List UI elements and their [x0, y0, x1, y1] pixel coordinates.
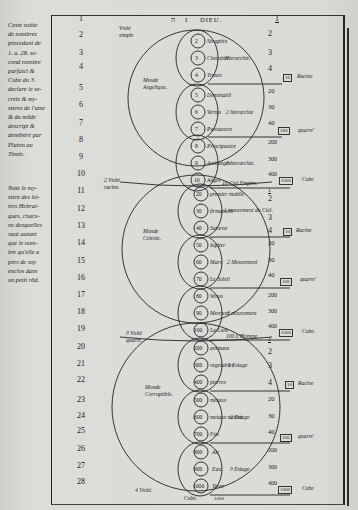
- cube-bottom-value: 1000: [214, 496, 224, 503]
- label-line: 2 Vnité: [104, 177, 120, 184]
- cube-bottom-label: Cube.: [184, 495, 197, 502]
- right-number-1: 1: [268, 14, 286, 23]
- circle-number: 40: [196, 225, 202, 232]
- circle-number: 2: [195, 38, 198, 45]
- right-number: 1: [268, 335, 286, 344]
- order-name: premier mobile: [210, 191, 244, 198]
- order-name: Dominatiō: [207, 92, 231, 99]
- hierarchy-label: 1 Estage: [228, 362, 247, 369]
- right-number: 200: [268, 138, 286, 147]
- left-number: 3: [72, 48, 90, 57]
- label-line: Angelique.: [143, 84, 167, 91]
- scanned-page: Ceste suitte de nombres procedant de 1. …: [0, 0, 358, 510]
- quarre-label: quarre': [298, 433, 314, 440]
- racine-label: Racine: [296, 227, 312, 234]
- right-number: 2: [268, 29, 286, 38]
- left-number: 27: [72, 461, 90, 470]
- right-number: 300: [268, 155, 286, 164]
- circle-number: 400: [194, 379, 202, 386]
- monde-corruptible-label: Monde Corruptible.: [145, 384, 173, 397]
- label-line: Monde: [143, 228, 161, 235]
- circle-number: 500: [194, 397, 202, 404]
- left-number: 23: [72, 395, 90, 404]
- monde-celeste-label: Monde Celeste.: [143, 228, 161, 241]
- label-line: quarre.: [126, 337, 142, 344]
- cube-box: 1000: [278, 486, 292, 494]
- hebrew-yod: I: [185, 16, 188, 24]
- circle-number: 50: [196, 242, 202, 249]
- left-number: 13: [72, 221, 90, 230]
- right-number: 30: [268, 255, 286, 264]
- label-line: Vnité: [119, 25, 134, 32]
- hebrew-he: ה: [171, 16, 176, 24]
- left-number: 18: [72, 307, 90, 316]
- unite-simple-label: Vnité simple: [119, 25, 134, 38]
- order-name: Le Soleil: [210, 276, 230, 283]
- unite-quarre-label: 3 Vnité quarre.: [126, 330, 142, 343]
- label-line: Monde: [145, 384, 173, 391]
- racine-box: 10: [283, 74, 292, 82]
- cube-label: Cube.: [302, 328, 315, 335]
- racine-label: Racine: [297, 73, 313, 80]
- circle-number: 600: [194, 414, 202, 421]
- circle-number: 20: [196, 191, 202, 198]
- left-number: 1: [72, 14, 90, 23]
- order-name: Anges: [207, 177, 221, 184]
- right-number: 300: [268, 307, 286, 316]
- label-line: Monde: [143, 77, 167, 84]
- left-number: 15: [72, 256, 90, 265]
- circle-number: 9: [195, 160, 198, 167]
- hierarchy-label: 2 hierarchie: [226, 109, 253, 116]
- right-number: 30: [268, 102, 286, 111]
- circle-number: 900: [194, 466, 202, 473]
- label-line: Celeste.: [143, 235, 161, 242]
- left-number: 10: [72, 169, 90, 178]
- order-name: Venus: [210, 293, 223, 300]
- left-number: 9: [72, 152, 90, 161]
- right-number: 20: [268, 394, 286, 403]
- left-number: 8: [72, 135, 90, 144]
- left-number: 21: [72, 359, 90, 368]
- cube-label: Cube: [302, 485, 314, 492]
- circle-number: 10: [194, 177, 200, 184]
- racine-label: Racine: [298, 380, 314, 387]
- hierarchy-label: 2 Estage: [230, 414, 249, 421]
- left-number: 7: [72, 118, 90, 127]
- hierarchy-label: Hierarchie.: [225, 55, 251, 62]
- circle-number: 8: [195, 143, 198, 150]
- hierarchy-label: 3 hierarchie.: [226, 160, 255, 167]
- left-number: 5: [72, 83, 90, 92]
- right-number: 4: [268, 64, 286, 73]
- circle-number: 4: [195, 72, 198, 79]
- right-number: 2: [268, 347, 286, 356]
- order-name: Saturne: [210, 225, 227, 232]
- quarre-box: 100: [280, 434, 292, 442]
- left-number: 12: [72, 204, 90, 213]
- dieu-title: DIEU.: [200, 16, 222, 23]
- cube-label: Cube: [302, 176, 314, 183]
- homme-label: 100 L'Homme: [226, 333, 258, 340]
- right-number: 200: [268, 446, 286, 455]
- monde-angelique-label: Monde Angelique.: [143, 77, 167, 90]
- unite-racine-label: 2 Vnité racine.: [104, 177, 120, 190]
- quarre-box: 100: [280, 278, 292, 286]
- hierarchy-label: 2 Mouvement: [227, 259, 257, 266]
- right-number: 30: [268, 411, 286, 420]
- left-number: 20: [72, 342, 90, 351]
- left-number: 17: [72, 290, 90, 299]
- label-line: Corruptible.: [145, 391, 173, 398]
- order-name: Principautez: [207, 143, 236, 150]
- circle-number: 200: [194, 345, 202, 352]
- right-number: 3: [268, 48, 286, 57]
- order-name: Trones: [207, 72, 222, 79]
- order-name: Mars: [210, 259, 222, 266]
- right-number: 300: [268, 463, 286, 472]
- quarre-label: quarre': [300, 276, 316, 283]
- circle-number: 70: [196, 276, 202, 283]
- order-name: Feu: [210, 431, 219, 438]
- left-number: 16: [72, 273, 90, 282]
- left-number: 14: [72, 238, 90, 247]
- left-number: 6: [72, 100, 90, 109]
- order-name: pierres: [210, 379, 226, 386]
- order-name: Iupiter: [210, 242, 225, 249]
